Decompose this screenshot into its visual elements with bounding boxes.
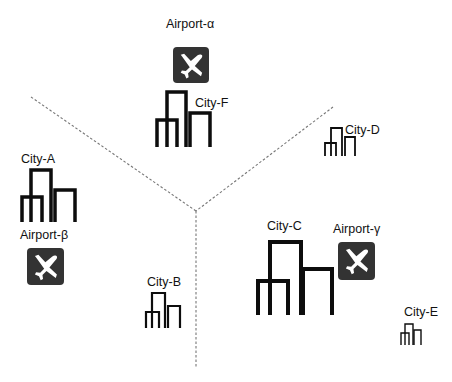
city-b-building-icon (146, 293, 180, 328)
airport-beta-label: Airport-β (20, 229, 68, 242)
airport-alpha-label: Airport-α (166, 18, 214, 31)
city-e-building-icon (401, 324, 421, 345)
divider-right (196, 107, 333, 211)
city-a-building-icon (22, 170, 75, 222)
city-b-label: City-B (147, 276, 181, 289)
airport-beta-icon (27, 248, 64, 285)
city-d-label: City-D (345, 124, 380, 137)
region-map-diagram (0, 0, 452, 382)
city-c-building-icon (258, 242, 332, 315)
city-e-label: City-E (404, 306, 438, 319)
city-c-label: City-C (267, 220, 302, 233)
city-f-label: City-F (195, 97, 228, 110)
airport-gamma-icon (338, 242, 375, 280)
airports (27, 47, 375, 285)
city-a-label: City-A (21, 153, 55, 166)
airport-alpha-icon (173, 47, 209, 83)
airport-gamma-label: Airport-γ (333, 223, 380, 236)
